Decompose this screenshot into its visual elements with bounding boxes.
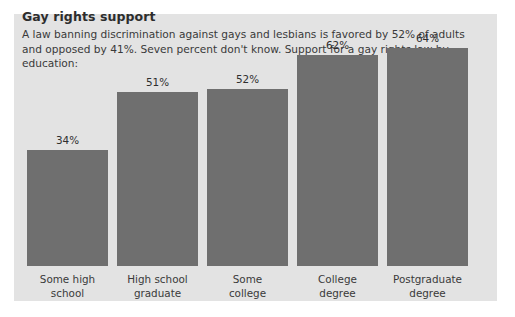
bar-rect[interactable] <box>297 55 378 266</box>
category-label-line: school <box>27 286 108 300</box>
category-label-line: college <box>207 286 288 300</box>
bar-value-label: 52% <box>236 73 259 86</box>
category-label: Some high school <box>27 272 108 300</box>
bar-series: 34% 51% 52% 62% 64% <box>27 14 484 266</box>
category-label-line: High school <box>117 272 198 286</box>
chart-plot-area: 34% 51% 52% 62% 64% Some hig <box>14 14 497 301</box>
category-label-line: Some <box>207 272 288 286</box>
bar-group: 52% <box>207 14 288 266</box>
bar-group: 51% <box>117 14 198 266</box>
category-label-line: graduate <box>117 286 198 300</box>
category-axis-labels: Some high school High school graduate So… <box>27 272 484 300</box>
bar-value-label: 64% <box>416 32 439 45</box>
category-label-line: College <box>297 272 378 286</box>
bar-value-label: 34% <box>56 134 79 147</box>
category-label-line: degree <box>297 286 378 300</box>
bar-value-label: 62% <box>326 39 349 52</box>
bar-rect[interactable] <box>207 89 288 266</box>
category-label-line: degree <box>387 286 468 300</box>
bar-group: 34% <box>27 14 108 266</box>
category-label-line: Some high <box>27 272 108 286</box>
bar-group: 62% <box>297 14 378 266</box>
category-label-line: Postgraduate <box>387 272 468 286</box>
category-label: High school graduate <box>117 272 198 300</box>
bar-rect[interactable] <box>27 150 108 266</box>
bar-rect[interactable] <box>117 92 198 266</box>
category-label: Postgraduate degree <box>387 272 468 300</box>
bar-value-label: 51% <box>146 76 169 89</box>
bar-group: 64% <box>387 14 468 266</box>
chart-figure: Gay rights support A law banning discrim… <box>0 0 515 317</box>
bar-rect[interactable] <box>387 48 468 266</box>
category-label: Some college <box>207 272 288 300</box>
category-label: College degree <box>297 272 378 300</box>
